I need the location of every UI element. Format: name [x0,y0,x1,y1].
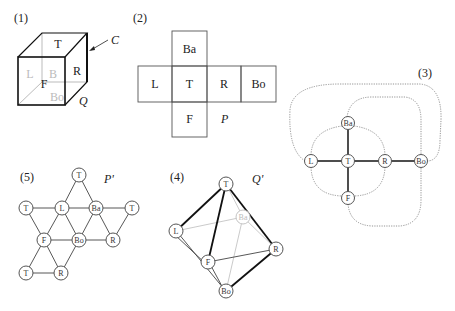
node-t-bottom: T [19,266,33,280]
node-l: L [305,155,318,168]
svg-text:Bo: Bo [74,236,83,245]
face-back: B [49,67,57,81]
node-l: L [55,201,69,215]
node-r: R [379,155,392,168]
unfolded-name-label: P' [103,172,114,186]
face-bottom: Bo [50,90,64,104]
svg-text:Ba: Ba [344,119,353,128]
panel-3-graph: (3) Ba L T R Bo F [290,66,441,226]
svg-text:T: T [130,204,135,213]
svg-text:T: T [24,269,29,278]
node-bo: Bo [415,155,428,168]
svg-text:Ba: Ba [239,213,248,222]
face-right: R [73,64,81,78]
svg-text:F: F [42,236,47,245]
net-cell-f: F [186,112,193,126]
svg-text:F: F [346,194,351,203]
svg-text:T: T [346,157,351,166]
node-t-top: T [72,168,86,182]
svg-text:R: R [273,245,279,254]
svg-text:R: R [382,157,388,166]
net-name-label: P [220,112,229,126]
cube-name-label: Q [79,94,88,108]
panel-5-label: (5) [20,170,34,184]
face-top: T [54,37,62,51]
node-t: T [219,177,233,191]
figure-canvas: (1) T L B R F Bo Q C (2) [0,0,455,311]
node-r: R [269,242,283,256]
panel-4-label: (4) [170,170,184,184]
svg-text:F: F [206,258,211,267]
net-cell-ba: Ba [183,42,197,56]
arrow-label: C [111,33,120,47]
node-bo: Bo [219,284,233,298]
node-ba: Ba [89,201,103,215]
node-f: F [37,233,51,247]
svg-text:L: L [174,227,179,236]
svg-text:Bo: Bo [221,287,230,296]
svg-text:Bo: Bo [416,157,425,166]
net-cell-l: L [151,77,158,91]
octahedron-name-label: Q' [252,172,264,186]
panel-4-octahedron: (4) Q' T Ba L F R Bo [169,170,283,298]
node-f: F [342,192,355,205]
node-ba: Ba [342,117,355,130]
face-left: L [26,67,33,81]
svg-text:L: L [309,157,314,166]
net-cell-bo: Bo [251,77,265,91]
svg-text:R: R [110,236,116,245]
svg-text:T: T [77,171,82,180]
node-ba: Ba [236,210,250,224]
svg-text:T: T [24,204,29,213]
panel-3-label: (3) [418,66,432,80]
node-t: T [342,155,355,168]
node-l: L [169,224,183,238]
net-cell-r: R [220,77,228,91]
node-t-right: T [125,201,139,215]
panel-5-unfolded-graph: (5) P' T T L Ba T F [19,168,139,280]
node-f: F [201,255,215,269]
panel-1-label: (1) [14,11,28,25]
panel-2-net: (2) Ba L T R Bo F P [133,11,276,137]
node-r-bottom: R [54,266,68,280]
panel-2-label: (2) [133,11,147,25]
node-t-left: T [19,201,33,215]
svg-text:T: T [224,180,229,189]
node-bo: Bo [72,233,86,247]
node-r: R [106,233,120,247]
svg-text:L: L [60,204,65,213]
svg-text:R: R [58,269,64,278]
svg-text:Ba: Ba [92,204,101,213]
net-cell-t: T [186,77,194,91]
panel-1-cube: (1) T L B R F Bo Q C [14,11,120,108]
face-front: F [41,77,48,91]
